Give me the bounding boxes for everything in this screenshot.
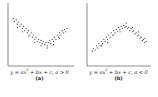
data-point bbox=[144, 42, 145, 43]
data-point bbox=[123, 25, 124, 26]
data-point bbox=[49, 40, 50, 41]
panel-a: y = ax2 + bx + c, a > 0 (a) bbox=[0, 0, 79, 97]
data-point bbox=[42, 43, 43, 44]
data-point bbox=[127, 28, 128, 29]
data-point bbox=[144, 38, 145, 39]
data-point bbox=[26, 28, 27, 29]
data-point bbox=[34, 39, 35, 40]
data-point bbox=[95, 50, 96, 51]
data-points-b bbox=[92, 23, 147, 52]
data-point bbox=[132, 31, 133, 32]
data-point bbox=[143, 39, 144, 40]
data-point bbox=[17, 24, 18, 25]
data-point bbox=[137, 35, 138, 36]
data-point bbox=[145, 41, 146, 42]
data-point bbox=[136, 32, 137, 33]
data-point bbox=[59, 38, 60, 39]
data-point bbox=[44, 44, 45, 45]
data-point bbox=[129, 30, 130, 31]
data-point bbox=[38, 39, 39, 40]
data-point bbox=[16, 19, 17, 20]
data-point bbox=[57, 34, 58, 35]
data-point bbox=[117, 31, 118, 32]
data-point bbox=[32, 37, 33, 38]
data-point bbox=[119, 31, 120, 32]
data-point bbox=[118, 27, 119, 28]
data-point bbox=[43, 41, 44, 42]
data-point bbox=[52, 39, 53, 40]
data-point bbox=[48, 42, 49, 43]
data-point bbox=[124, 27, 125, 28]
data-point bbox=[109, 37, 110, 38]
scatter-plot-b bbox=[79, 0, 158, 68]
panel-label-a: (a) bbox=[0, 75, 79, 82]
data-point bbox=[97, 47, 98, 48]
data-point bbox=[122, 28, 123, 29]
data-point bbox=[138, 34, 139, 35]
data-point bbox=[40, 40, 41, 41]
data-point bbox=[23, 26, 24, 27]
data-point bbox=[59, 32, 60, 33]
data-point bbox=[21, 24, 22, 25]
data-point bbox=[13, 18, 14, 19]
data-point bbox=[33, 34, 34, 35]
data-point bbox=[29, 34, 30, 35]
data-point bbox=[132, 27, 133, 28]
data-point bbox=[61, 30, 62, 31]
data-point bbox=[134, 33, 135, 34]
data-point bbox=[65, 31, 66, 32]
data-point bbox=[102, 43, 103, 44]
data-point bbox=[128, 27, 129, 28]
data-point bbox=[96, 45, 97, 46]
data-point bbox=[30, 32, 31, 33]
data-point bbox=[113, 30, 114, 31]
data-point bbox=[103, 39, 104, 40]
data-point bbox=[114, 32, 115, 33]
data-point bbox=[126, 26, 127, 27]
data-point bbox=[27, 32, 28, 33]
data-point bbox=[34, 42, 35, 43]
data-point bbox=[60, 34, 61, 35]
data-point bbox=[107, 42, 108, 43]
data-point bbox=[119, 29, 120, 30]
data-point bbox=[107, 39, 108, 40]
panel-label-b: (b) bbox=[79, 75, 158, 82]
data-point bbox=[35, 37, 36, 38]
scatter-plot-a bbox=[0, 0, 79, 68]
data-point bbox=[53, 41, 54, 42]
data-point bbox=[53, 44, 54, 45]
data-point bbox=[105, 41, 106, 42]
data-point bbox=[47, 47, 48, 48]
data-point bbox=[22, 28, 23, 29]
data-points-a bbox=[13, 18, 68, 48]
data-point bbox=[138, 31, 139, 32]
data-point bbox=[131, 28, 132, 29]
data-point bbox=[58, 37, 59, 38]
data-point bbox=[55, 39, 56, 40]
data-point bbox=[140, 37, 141, 38]
data-point bbox=[113, 34, 114, 35]
data-point bbox=[112, 34, 113, 35]
data-point bbox=[64, 29, 65, 30]
data-point bbox=[47, 45, 48, 46]
data-point bbox=[92, 51, 93, 52]
data-point bbox=[66, 28, 67, 29]
data-point bbox=[24, 30, 25, 31]
data-point bbox=[108, 34, 109, 35]
data-point bbox=[19, 26, 20, 27]
data-point bbox=[28, 30, 29, 31]
panel-b: y = ax2 + bx + c, a < 0 (b) bbox=[79, 0, 158, 97]
data-point bbox=[54, 37, 55, 38]
data-point bbox=[63, 32, 64, 33]
data-point bbox=[17, 27, 18, 28]
data-point bbox=[116, 29, 117, 30]
data-point bbox=[111, 32, 112, 33]
data-point bbox=[142, 40, 143, 41]
data-point bbox=[98, 43, 99, 44]
data-point bbox=[37, 41, 38, 42]
data-point bbox=[22, 31, 23, 32]
data-point bbox=[93, 48, 94, 49]
data-point bbox=[101, 45, 102, 46]
data-point bbox=[14, 21, 15, 22]
data-point bbox=[100, 45, 101, 46]
